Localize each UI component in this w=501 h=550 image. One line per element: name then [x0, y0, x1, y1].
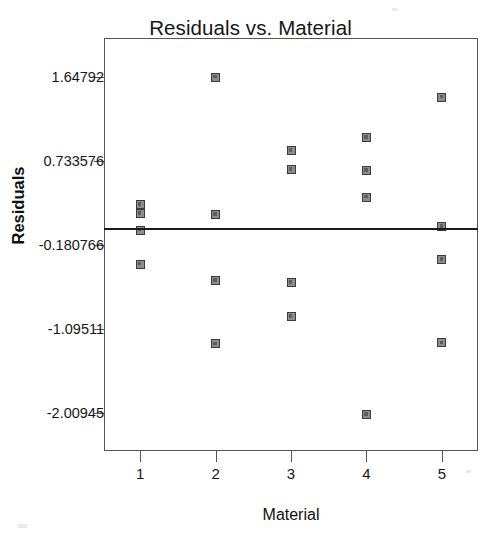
- y-tick-label: -0.180766: [14, 237, 104, 253]
- y-tick-label: -2.00945: [14, 405, 104, 421]
- x-tick-mark: [216, 451, 217, 462]
- data-point: [437, 93, 446, 102]
- scan-artifact: [466, 470, 471, 473]
- data-point: [287, 146, 296, 155]
- data-point: [362, 133, 371, 142]
- x-tick-label: 1: [120, 465, 160, 482]
- data-point: [437, 338, 446, 347]
- y-tick-label: -1.09511: [14, 321, 104, 337]
- data-point: [211, 210, 220, 219]
- data-point: [211, 339, 220, 348]
- residual-plot: Residuals vs. Material 1.647920.733576-0…: [0, 0, 501, 550]
- data-point: [136, 200, 145, 209]
- x-axis-title: Material: [104, 506, 478, 524]
- x-tick-mark: [366, 451, 367, 462]
- data-point: [211, 276, 220, 285]
- data-point: [287, 312, 296, 321]
- x-tick-label: 2: [196, 465, 236, 482]
- data-point: [211, 73, 220, 82]
- data-point: [362, 166, 371, 175]
- scan-artifact: [392, 8, 398, 11]
- x-tick-label: 3: [271, 465, 311, 482]
- data-point: [287, 165, 296, 174]
- x-tick-label: 4: [346, 465, 386, 482]
- data-point: [362, 410, 371, 419]
- plot-frame: [104, 38, 478, 451]
- zero-reference-line: [104, 228, 478, 230]
- scan-artifact: [18, 524, 27, 528]
- x-tick-mark: [140, 451, 141, 462]
- x-tick-mark: [442, 451, 443, 462]
- y-tick-label: 0.733576: [14, 153, 104, 169]
- x-tick-mark: [291, 451, 292, 462]
- y-axis-title: Residuals: [9, 151, 28, 261]
- chart-title: Residuals vs. Material: [0, 16, 501, 40]
- data-point: [136, 260, 145, 269]
- x-tick-label: 5: [422, 465, 462, 482]
- y-tick-label: 1.64792: [14, 69, 104, 85]
- data-point: [362, 193, 371, 202]
- data-point: [287, 278, 296, 287]
- data-point: [136, 209, 145, 218]
- data-point: [437, 255, 446, 264]
